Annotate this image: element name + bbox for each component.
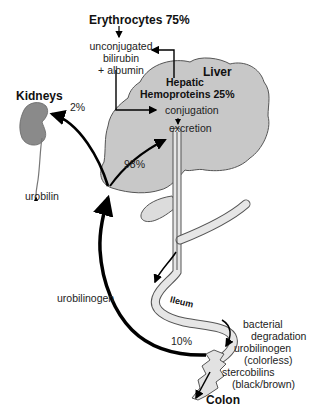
colorless-label: (colorless)	[234, 354, 292, 366]
conjugation-label: conjugation	[165, 104, 219, 116]
excretion-label: excretion	[169, 122, 212, 134]
bilirubin-metabolism-diagram: Erythrocytes 75% unconjugated bilirubin …	[0, 0, 321, 416]
liver-return-percent: 98%	[124, 158, 145, 170]
urobilinogen-return-arrow	[100, 198, 206, 355]
stercobilins-label: stercobilins (black/brown)	[222, 366, 295, 390]
bacterial-label: bacterial degradation	[243, 318, 306, 342]
hepatic-line2: Hemoproteins 25%	[140, 88, 230, 100]
stercobilins-line1: stercobilins	[222, 366, 295, 378]
erythrocytes-label: Erythrocytes 75%	[89, 14, 190, 26]
colon-label: Colon	[206, 394, 240, 406]
hepatic-hemoproteins-label: Hepatic Hemoproteins 25%	[140, 76, 230, 100]
urobilinogen-colon-line1: urobilinogen	[234, 342, 292, 354]
reabsorbed-percent: 10%	[171, 335, 192, 347]
hepatic-line1: Hepatic	[140, 76, 230, 88]
bilirubin-line1: unconjugated	[89, 40, 153, 52]
urobilinogen-colon-label: urobilinogen (colorless)	[234, 342, 292, 366]
bilirubin-line2: bilirubin	[89, 52, 153, 64]
urobilin-label: urobilin	[25, 190, 59, 202]
bilirubin-label: unconjugated bilirubin + albumin	[89, 40, 153, 76]
kidney-percent: 2%	[70, 101, 85, 113]
bacterial-line1: bacterial	[243, 318, 306, 330]
bacterial-line2: degradation	[243, 330, 306, 342]
bilirubin-line3: + albumin	[89, 64, 153, 76]
kidney-shape	[20, 103, 48, 146]
kidneys-label: Kidneys	[16, 90, 63, 102]
gallbladder-shape	[141, 196, 178, 222]
urobilinogen-return-label: urobilinogen	[57, 292, 114, 304]
black-brown-label: (black/brown)	[222, 378, 295, 390]
